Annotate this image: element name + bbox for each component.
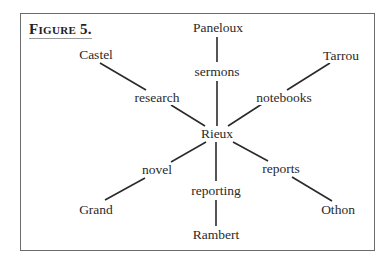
- node-novel: novel: [141, 163, 173, 177]
- node-castel: Castel: [78, 48, 114, 62]
- edge-line: [287, 63, 330, 90]
- node-reports: reports: [261, 162, 301, 176]
- edge-line: [100, 63, 146, 90]
- figure-title: Figure 5.: [29, 21, 92, 39]
- node-sermons: sermons: [194, 65, 241, 79]
- node-notebooks: notebooks: [255, 91, 313, 105]
- edge-line: [233, 142, 268, 161]
- node-paneloux: Paneloux: [192, 21, 244, 35]
- node-rieux: Rieux: [200, 127, 234, 141]
- node-reporting: reporting: [190, 184, 242, 198]
- node-rambert: Rambert: [192, 228, 241, 242]
- node-grand: Grand: [78, 203, 114, 217]
- edge-line: [171, 105, 205, 126]
- edge-line: [171, 142, 206, 162]
- edge-line: [292, 177, 332, 201]
- edge-layer: [0, 0, 390, 265]
- node-research: research: [134, 91, 181, 105]
- edge-line: [105, 178, 145, 200]
- edge-line: [228, 104, 262, 126]
- node-tarrou: Tarrou: [322, 49, 360, 63]
- node-othon: Othon: [320, 203, 356, 217]
